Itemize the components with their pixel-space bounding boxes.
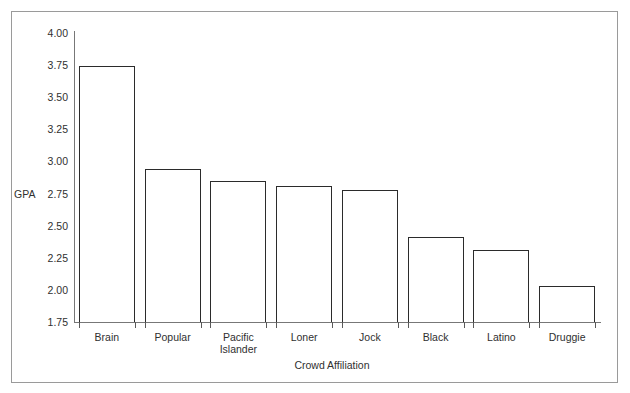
bar xyxy=(473,250,529,322)
x-axis-category-label: Pacific Islander xyxy=(206,331,272,355)
y-axis-title: GPA xyxy=(14,188,54,199)
bar xyxy=(539,286,595,322)
x-axis-tick xyxy=(79,322,80,328)
bar xyxy=(210,181,266,322)
x-axis-tick xyxy=(276,322,277,328)
y-axis-tick-label: 2.25 xyxy=(0,253,68,264)
x-axis-tick xyxy=(266,322,267,328)
y-axis-line xyxy=(74,31,75,323)
x-axis-category-label: Loner xyxy=(271,331,337,343)
x-axis-tick xyxy=(135,322,136,328)
x-axis-tick xyxy=(473,322,474,328)
x-axis-tick xyxy=(408,322,409,328)
y-axis-tick-label: 3.75 xyxy=(0,60,68,71)
x-axis-tick xyxy=(539,322,540,328)
x-axis-category-label: Popular xyxy=(140,331,206,343)
y-axis-tick-label: 3.25 xyxy=(0,124,68,135)
x-axis-tick xyxy=(210,322,211,328)
x-axis-category-label: Jock xyxy=(337,331,403,343)
x-axis-category-label: Latino xyxy=(469,331,535,343)
y-axis-tick-label: 3.50 xyxy=(0,92,68,103)
x-axis-tick xyxy=(595,322,596,328)
y-axis-tick-label: 2.00 xyxy=(0,285,68,296)
y-axis-tick-label: 2.50 xyxy=(0,220,68,231)
x-axis-tick xyxy=(201,322,202,328)
bar xyxy=(145,169,201,322)
x-axis-tick xyxy=(145,322,146,328)
y-axis-tick-label: 1.75 xyxy=(0,317,68,328)
bar xyxy=(342,190,398,322)
y-axis-tick-label: 4.00 xyxy=(0,28,68,39)
x-axis-tick xyxy=(398,322,399,328)
bar xyxy=(408,237,464,322)
x-axis-line xyxy=(74,322,601,323)
x-axis-category-label: Brain xyxy=(74,331,140,343)
x-axis-category-label: Black xyxy=(403,331,469,343)
x-axis-title-text: Crowd Affiliation xyxy=(294,359,369,371)
x-axis-tick xyxy=(464,322,465,328)
x-axis-category-label: Druggie xyxy=(534,331,600,343)
x-axis-title: Crowd Affiliation xyxy=(0,359,630,371)
y-axis-tick-label: 3.00 xyxy=(0,156,68,167)
x-axis-tick xyxy=(342,322,343,328)
bar xyxy=(276,186,332,322)
x-axis-tick xyxy=(332,322,333,328)
bar xyxy=(79,66,135,322)
chart-figure: 4.003.753.503.253.002.752.502.252.001.75… xyxy=(0,0,630,393)
x-axis-tick xyxy=(529,322,530,328)
